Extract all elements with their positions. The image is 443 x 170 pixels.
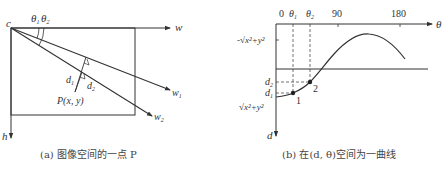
panel-a-image-space: c w h θ1 θ2 w1 w2 d1 d2 P(x, y)	[2, 12, 183, 142]
theta-axis-label: θ	[436, 18, 442, 30]
d2-label: d2	[87, 80, 95, 92]
ray-w1-label: w1	[172, 87, 182, 99]
d1-label: d1	[66, 74, 74, 86]
point-p-label: P(x, y)	[56, 95, 84, 107]
tick-label-180: 180	[391, 8, 406, 19]
diagram-canvas: c w h θ1 θ2 w1 w2 d1 d2 P(x, y) θ	[0, 0, 443, 170]
tick-label-theta2: θ2	[306, 8, 314, 20]
neg-sqrt-label: -√x²+y²	[237, 35, 265, 45]
point-1-label: 1	[296, 95, 301, 106]
pos-sqrt-label: √x²+y²	[239, 102, 264, 112]
d-axis-label: d	[267, 129, 273, 141]
ray-w2-label: w2	[154, 111, 164, 123]
panel-b-parameter-space: θ d 0 θ1 θ2 90 180 -√x²+y² √x²+y² d2 d1 …	[237, 8, 442, 141]
sinusoid-curve	[276, 34, 405, 97]
origin-label: c	[6, 17, 11, 29]
d1-axis-label: d1	[265, 87, 273, 99]
caption-a: (a) 图像空间的一点 P	[40, 146, 137, 161]
point-2	[308, 80, 312, 84]
theta1-label: θ1	[31, 12, 39, 25]
theta1-arc	[37, 28, 39, 38]
point-1	[291, 91, 295, 95]
theta2-arc	[39, 28, 44, 46]
w-axis-label: w	[175, 21, 183, 33]
theta2-label: θ2	[41, 12, 49, 25]
point-2-label: 2	[313, 83, 318, 94]
tick-label-0: 0	[279, 8, 284, 19]
perpendicular-d2	[75, 72, 82, 92]
tick-label-90: 90	[332, 8, 342, 19]
tick-label-theta1: θ1	[289, 8, 297, 20]
caption-b: (b) 在(d, θ)空间为一曲线	[282, 146, 396, 161]
h-axis-label: h	[2, 130, 8, 142]
